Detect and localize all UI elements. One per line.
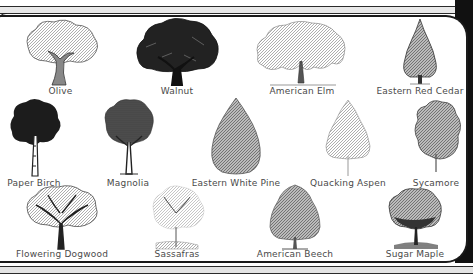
tree-label: American Elm (232, 86, 372, 96)
tree-american-beech: American Beech (262, 183, 328, 263)
frame-corner-ornament (0, 13, 7, 22)
tree-walnut: Walnut (132, 17, 222, 95)
american-beech-tree-icon (262, 183, 328, 253)
frame-bottom (0, 263, 473, 279)
tree-label: American Beech (242, 249, 348, 259)
frame-bottom-band (0, 266, 473, 274)
quacking-aspen-tree-icon (318, 96, 378, 178)
frame-top-band (0, 6, 473, 14)
tree-magnolia: Magnolia (98, 96, 158, 188)
flowering-dogwood-tree-icon (22, 183, 102, 253)
tree-paper-birch: Paper Birch (4, 96, 64, 188)
tree-quacking-aspen: Quacking Aspen (318, 96, 378, 188)
magnolia-tree-icon (98, 96, 158, 178)
tree-label: Flowering Dogwood (2, 249, 122, 259)
tree-label: Olive (0, 86, 123, 96)
tree-flowering-dogwood: Flowering Dogwood (22, 183, 102, 263)
eastern-white-pine-tree-icon (200, 96, 272, 178)
tree-eastern-white-pine: Eastern White Pine (200, 96, 272, 188)
sycamore-tree-icon (406, 96, 466, 178)
sugar-maple-tree-icon (382, 183, 448, 253)
tree-sycamore: Sycamore (406, 96, 466, 188)
tree-label: Sassafras (124, 249, 230, 259)
eastern-red-cedar-tree-icon (380, 17, 460, 87)
tree-american-elm: American Elm (252, 17, 352, 95)
american-elm-tree-icon (252, 17, 352, 87)
walnut-tree-icon (132, 17, 222, 87)
tree-label: Eastern Red Cedar (360, 86, 473, 96)
tree-olive: Olive (18, 17, 103, 95)
tree-eastern-red-cedar: Eastern Red Cedar (380, 17, 460, 95)
tree-sugar-maple: Sugar Maple (382, 183, 448, 263)
paper-birch-tree-icon (4, 96, 64, 178)
olive-tree-icon (18, 17, 103, 87)
sassafras-tree-icon (144, 183, 210, 253)
tree-label: Walnut (112, 86, 242, 96)
tree-label: Sugar Maple (362, 249, 468, 259)
frame-top (0, 0, 473, 14)
tree-sassafras: Sassafras (144, 183, 210, 263)
